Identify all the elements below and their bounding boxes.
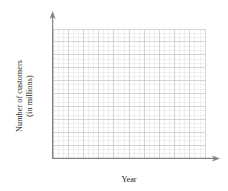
y-axis-label: Number of customers (in millions) — [0, 0, 50, 191]
x-axis-label: Year — [53, 175, 205, 185]
graph-figure: Number of customers (in millions) Year — [0, 0, 228, 191]
y-axis-label-line2: (in millions) — [25, 60, 35, 132]
y-axis-label-line1: Number of customers — [15, 60, 25, 132]
y-axis-label-text: Number of customers (in millions) — [15, 60, 34, 132]
